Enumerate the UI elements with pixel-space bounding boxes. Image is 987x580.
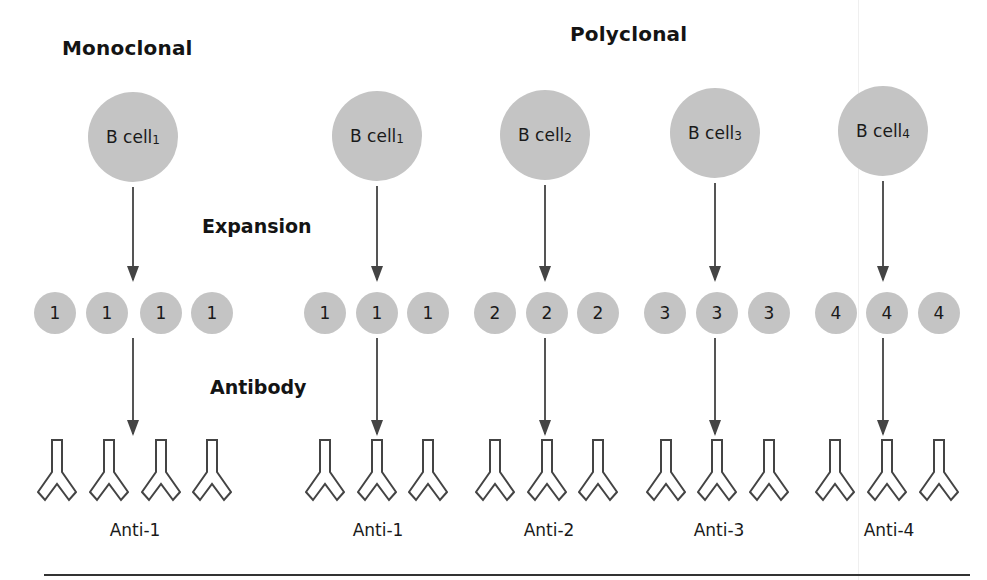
b-cell: B cell2 (500, 90, 590, 180)
antibody-icon (408, 438, 448, 504)
antibody-icon (697, 438, 737, 504)
b-cell-subscript: 1 (396, 132, 404, 146)
expansion-arrow (882, 181, 884, 280)
antibody-icon (749, 438, 789, 504)
expansion-arrow (544, 185, 546, 280)
clone-cell: 4 (815, 292, 857, 334)
antibody-icon (527, 438, 567, 504)
b-cell-label: B cell (106, 127, 152, 147)
b-cell-subscript: 1 (152, 133, 160, 147)
clone-cell: 3 (748, 292, 790, 334)
clone-cell: 2 (526, 292, 568, 334)
clone-cell: 4 (918, 292, 960, 334)
antibody-type-label: Anti-3 (694, 520, 745, 540)
b-cell-label: B cell (350, 126, 396, 146)
antibody-type-label: Anti-2 (524, 520, 575, 540)
b-cell: B cell1 (88, 92, 178, 182)
b-cell-subscript: 3 (734, 129, 742, 143)
b-cell: B cell4 (838, 86, 928, 176)
antibody-icon (89, 438, 129, 504)
antibody-arrow (882, 338, 884, 434)
clone-cell: 1 (86, 292, 128, 334)
antibody-icon (919, 438, 959, 504)
clone-cell: 1 (304, 292, 346, 334)
antibody-icon (305, 438, 345, 504)
antibody-icon (37, 438, 77, 504)
antibody-icon (578, 438, 618, 504)
clone-cell: 2 (474, 292, 516, 334)
clone-cell: 1 (191, 292, 233, 334)
scan-artifact-line (858, 0, 859, 580)
antibody-arrow (376, 338, 378, 434)
antibody-arrow (132, 338, 134, 434)
antibody-icon (141, 438, 181, 504)
antibody-icon (646, 438, 686, 504)
expansion-label: Expansion (202, 215, 312, 237)
clone-cell: 3 (644, 292, 686, 334)
b-cell: B cell1 (332, 91, 422, 181)
antibody-icon (475, 438, 515, 504)
antibody-arrow (714, 338, 716, 434)
expansion-arrow (714, 183, 716, 280)
antibody-type-label: Anti-4 (864, 520, 915, 540)
polyclonal-title: Polyclonal (570, 22, 687, 46)
expansion-arrow (376, 186, 378, 280)
b-cell-label: B cell (688, 123, 734, 143)
antibody-icon (815, 438, 855, 504)
b-cell-label: B cell (856, 121, 902, 141)
clone-cell: 3 (696, 292, 738, 334)
antibody-type-label: Anti-1 (353, 520, 404, 540)
clone-cell: 1 (140, 292, 182, 334)
bottom-rule (44, 574, 970, 576)
expansion-arrow (132, 187, 134, 280)
clone-cell: 1 (407, 292, 449, 334)
b-cell-subscript: 2 (564, 131, 572, 145)
clone-cell: 2 (577, 292, 619, 334)
b-cell-subscript: 4 (902, 127, 910, 141)
monoclonal-vs-polyclonal-diagram: Monoclonal Polyclonal Expansion Antibody… (0, 0, 987, 580)
clone-cell: 1 (356, 292, 398, 334)
clone-cell: 4 (866, 292, 908, 334)
antibody-icon (867, 438, 907, 504)
b-cell-label: B cell (518, 125, 564, 145)
antibody-label: Antibody (210, 376, 306, 398)
antibody-icon (357, 438, 397, 504)
monoclonal-title: Monoclonal (62, 36, 193, 60)
antibody-icon (192, 438, 232, 504)
clone-cell: 1 (34, 292, 76, 334)
antibody-type-label: Anti-1 (110, 520, 161, 540)
antibody-arrow (544, 338, 546, 434)
b-cell: B cell3 (670, 88, 760, 178)
